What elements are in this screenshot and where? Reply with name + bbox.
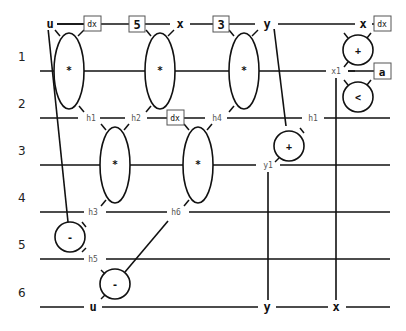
const-5-label: 5 [133, 18, 140, 32]
mul-op-1: * [66, 65, 72, 76]
row-label-4: 4 [18, 191, 26, 205]
wire-label-h4: h4 [212, 114, 222, 123]
bottom-label-y: y [263, 300, 270, 314]
mul-op-2: * [157, 65, 163, 76]
wire-label-x1: x1 [331, 67, 341, 76]
bottom-label-u: u [89, 300, 96, 314]
dx-label-top-left: dx [87, 20, 97, 29]
wire-diagram: dx 5 3 dx a dx u x y x x1 h1 h2 h4 h1 y1… [0, 0, 406, 331]
top-label-y: y [263, 17, 270, 31]
mul-op-3: * [241, 65, 247, 76]
dx-label-top-right: dx [377, 20, 387, 29]
add-op-1: + [355, 45, 361, 56]
a-label: a [379, 66, 386, 79]
mul-op-4: * [112, 159, 118, 170]
wire-label-h6: h6 [171, 208, 181, 217]
bottom-label-x: x [332, 300, 339, 314]
top-label-x-right: x [359, 17, 366, 31]
lt-op: < [355, 92, 361, 103]
sub-op-2: - [112, 279, 118, 290]
row-label-5: 5 [18, 238, 26, 252]
row-label-3: 3 [18, 144, 26, 158]
wire-label-h2: h2 [131, 114, 141, 123]
wire-label-h5: h5 [88, 255, 98, 264]
add-op-2: + [286, 141, 292, 152]
top-label-x: x [176, 17, 183, 31]
wire-label-y1: y1 [263, 161, 273, 170]
top-label-u: u [46, 17, 53, 31]
wire-label-h1-left: h1 [86, 114, 96, 123]
wire-label-h3: h3 [88, 208, 98, 217]
sub-op-1: - [67, 232, 73, 243]
wire-label-h1-right: h1 [308, 114, 318, 123]
mul-op-5: * [195, 159, 201, 170]
row-label-2: 2 [18, 97, 26, 111]
wire-h6-diagonal [125, 221, 168, 272]
wire-y-diagonal [274, 28, 286, 126]
const-3-label: 3 [217, 18, 224, 32]
row-label-1: 1 [18, 50, 26, 64]
row-label-6: 6 [18, 286, 26, 300]
dx-label-row2: dx [170, 114, 180, 123]
